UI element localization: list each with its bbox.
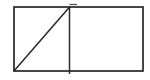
diagram-canvas xyxy=(0,0,150,80)
outer-rectangle xyxy=(14,7,143,71)
diagram-svg xyxy=(0,0,150,80)
